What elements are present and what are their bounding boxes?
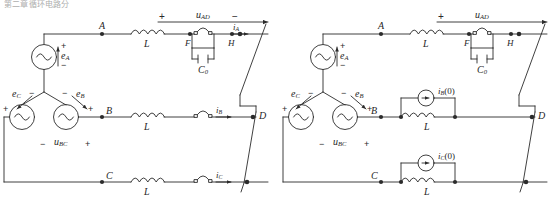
ec-minus-right: − [308, 88, 313, 98]
figure-canvas: 第二章循环电路分析 [0, 0, 558, 209]
inductor-l-c-right: L [424, 186, 430, 197]
node-b-right: B [371, 105, 377, 116]
eb-minus-left: − [62, 88, 67, 98]
node-c-left: C [106, 170, 113, 181]
ea-minus-right: − [340, 60, 345, 70]
ubc-minus-left: − [40, 139, 45, 149]
uad-minus-left: − [232, 11, 238, 22]
ec-plus-left: + [3, 104, 8, 114]
ea-plus-left: + [61, 41, 66, 51]
node-h-left: H [228, 38, 235, 48]
ec-plus-right: + [282, 104, 287, 114]
uad-label-right: uAD [475, 9, 489, 20]
uad-plus-left: + [159, 11, 165, 22]
inductor-l-b-right: L [424, 121, 430, 132]
ubc-minus-right: − [319, 139, 324, 149]
inductor-l-a-right: L [423, 38, 429, 49]
node-c-right: C [371, 170, 378, 181]
capacitor-c0-right: C0 [477, 64, 487, 75]
inductor-l-a-left: L [144, 38, 150, 49]
current-source-ic0-label: iC(0) [438, 151, 455, 161]
ea-plus-right: + [340, 41, 345, 51]
eb-plus-left: + [88, 104, 93, 114]
node-d-left: D [259, 110, 266, 121]
uad-label-left: uAD [196, 9, 210, 20]
node-h-right: H [507, 38, 514, 48]
ea-minus-left: − [61, 60, 66, 70]
node-f-right: F [464, 38, 470, 48]
ubc-label-right: uBC [333, 136, 346, 147]
current-ib-left: iB [216, 105, 222, 115]
source-eb-left: eB [76, 88, 84, 99]
circuit-diagram-svg [0, 0, 558, 209]
inductor-l-b-left: L [144, 121, 150, 132]
source-ec-right: eC [291, 88, 300, 99]
node-a-left: A [99, 20, 105, 31]
uad-plus-right: + [438, 11, 444, 22]
node-d-right: D [538, 110, 545, 121]
current-ic-left: iC [216, 170, 222, 180]
ec-minus-left: − [29, 88, 34, 98]
inductor-l-c-left: L [144, 186, 150, 197]
current-source-ib0-label: iB(0) [438, 86, 455, 96]
ubc-label-left: uBC [54, 136, 67, 147]
eb-minus-right: − [341, 88, 346, 98]
node-b-left: B [106, 105, 112, 116]
node-f-left: F [185, 38, 191, 48]
current-ia-left: iA [233, 22, 239, 32]
ubc-plus-left: + [85, 139, 90, 149]
source-ec-left: eC [12, 88, 21, 99]
ubc-plus-right: + [364, 139, 369, 149]
capacitor-c0-left: C0 [198, 64, 208, 75]
node-a-right: A [378, 20, 384, 31]
source-eb-right: eB [355, 88, 363, 99]
